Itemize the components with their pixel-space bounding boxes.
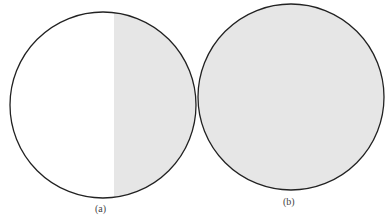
figure-a-label: (a) <box>95 203 106 214</box>
circle-a <box>10 0 214 218</box>
circle-b <box>198 4 384 190</box>
figure-b-label: (b) <box>283 196 295 207</box>
diagram-canvas <box>0 0 389 218</box>
